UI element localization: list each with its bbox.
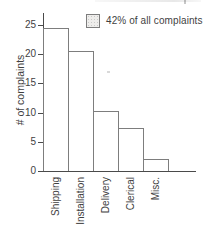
bar-shipping (43, 28, 69, 171)
y-tick-label: 15 (18, 77, 36, 89)
legend-label: 42% of all complaints (106, 14, 203, 28)
bar-delivery (93, 111, 119, 171)
cropped-text-fragment-mark (184, 0, 186, 4)
chart-legend: 42% of all complaints (86, 14, 203, 28)
legend-swatch (86, 14, 100, 28)
y-tick-label: 10 (18, 107, 36, 119)
bar-installation (68, 51, 94, 171)
x-tick-label: Misc. (150, 177, 162, 200)
bar-misc (143, 159, 169, 171)
pareto-chart-figure: 42% of all complaints # of complaints 05… (0, 0, 207, 229)
y-tick-label: 25 (18, 19, 36, 31)
y-tick-label: 5 (18, 136, 36, 148)
y-tick-mark (38, 171, 43, 172)
y-tick-mark (38, 25, 43, 26)
x-axis-line (43, 171, 196, 172)
bar-clerical (118, 128, 144, 171)
x-tick-label: Delivery (100, 177, 112, 213)
x-tick-label: Clerical (125, 177, 137, 210)
x-tick-label: Shipping (50, 177, 62, 216)
y-tick-label: 0 (18, 165, 36, 177)
x-tick-label: Installation (75, 177, 87, 225)
scan-smudge (107, 71, 110, 73)
y-tick-label: 20 (18, 48, 36, 60)
